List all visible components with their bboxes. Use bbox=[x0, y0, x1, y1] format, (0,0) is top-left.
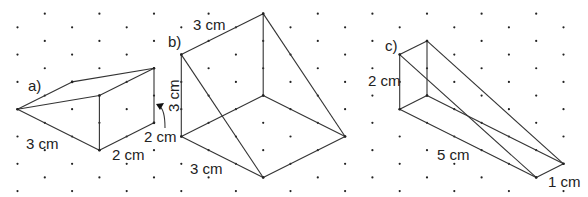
dimension-label-a: 3 cm bbox=[26, 135, 59, 152]
grid-dot bbox=[535, 13, 537, 15]
grid-dot bbox=[508, 26, 510, 28]
grid-dot bbox=[371, 67, 373, 69]
grid-dot bbox=[344, 190, 346, 192]
grid-dot bbox=[71, 26, 73, 28]
grid-dot bbox=[126, 108, 128, 110]
grid-dot bbox=[399, 190, 401, 192]
grid-dot bbox=[562, 108, 564, 110]
vertex-b bbox=[262, 94, 265, 97]
grid-dot bbox=[98, 40, 100, 42]
grid-dot bbox=[16, 81, 18, 83]
grid-dot bbox=[508, 54, 510, 56]
dimension-labels: a)3 cm2 cm2 cmb)3 cm3 cm3 cmc)2 cm5 cm1 … bbox=[26, 16, 581, 190]
grid-dot bbox=[481, 67, 483, 69]
grid-dot bbox=[481, 13, 483, 15]
grid-dot bbox=[235, 81, 237, 83]
dimension-label-c: 2 cm bbox=[368, 72, 401, 89]
grid-dot bbox=[399, 135, 401, 137]
dimension-label-b: 3 cm bbox=[193, 16, 226, 33]
grid-dot bbox=[317, 40, 319, 42]
dot-grid bbox=[16, 13, 564, 193]
grid-dot bbox=[481, 40, 483, 42]
grid-dot bbox=[180, 26, 182, 28]
vertex-c bbox=[426, 40, 429, 43]
grid-dot bbox=[71, 163, 73, 165]
dimension-label-a: 2 cm bbox=[112, 146, 145, 163]
grid-dot bbox=[16, 190, 18, 192]
dimension-label-b: 3 cm bbox=[190, 160, 223, 177]
edge-c bbox=[400, 41, 427, 55]
grid-dot bbox=[98, 13, 100, 15]
edge-b bbox=[263, 96, 345, 137]
grid-dot bbox=[289, 135, 291, 137]
grid-dot bbox=[426, 13, 428, 15]
grid-dot bbox=[180, 190, 182, 192]
dimension-label-c: 5 cm bbox=[437, 146, 470, 163]
grid-dot bbox=[289, 190, 291, 192]
grid-dot bbox=[44, 176, 46, 178]
edge-b bbox=[263, 137, 345, 178]
vertex-a bbox=[153, 67, 156, 70]
grid-dot bbox=[344, 108, 346, 110]
grid-dot bbox=[153, 149, 155, 151]
shape-label-a: a) bbox=[28, 77, 41, 94]
grid-dot bbox=[481, 176, 483, 178]
grid-dot bbox=[562, 81, 564, 83]
vertex-a bbox=[71, 81, 74, 84]
grid-dot bbox=[317, 13, 319, 15]
grid-dot bbox=[562, 190, 564, 192]
grid-dot bbox=[71, 190, 73, 192]
vertex-c bbox=[398, 108, 401, 111]
vertex-a bbox=[153, 122, 156, 125]
grid-dot bbox=[208, 67, 210, 69]
grid-dot bbox=[126, 26, 128, 28]
grid-dot bbox=[399, 163, 401, 165]
vertex-b bbox=[180, 135, 183, 138]
grid-dot bbox=[262, 149, 264, 151]
grid-dot bbox=[344, 26, 346, 28]
edge-a bbox=[72, 68, 154, 82]
grid-dot bbox=[126, 163, 128, 165]
grid-dot bbox=[153, 176, 155, 178]
grid-dot bbox=[481, 94, 483, 96]
grid-dot bbox=[317, 176, 319, 178]
grid-dot bbox=[508, 81, 510, 83]
grid-dot bbox=[262, 122, 264, 124]
shape-label-b: b) bbox=[168, 33, 181, 50]
grid-dot bbox=[562, 135, 564, 137]
grid-dot bbox=[453, 26, 455, 28]
grid-dot bbox=[508, 108, 510, 110]
grid-dot bbox=[508, 190, 510, 192]
grid-dot bbox=[44, 13, 46, 15]
grid-dot bbox=[44, 67, 46, 69]
grid-dot bbox=[344, 54, 346, 56]
grid-dot bbox=[535, 40, 537, 42]
grid-dot bbox=[344, 163, 346, 165]
grid-dot bbox=[562, 54, 564, 56]
grid-dot bbox=[44, 40, 46, 42]
dimension-label-c: 1 cm bbox=[548, 173, 581, 190]
vertex-b bbox=[180, 53, 183, 56]
grid-dot bbox=[16, 135, 18, 137]
grid-dot bbox=[317, 67, 319, 69]
grid-dot bbox=[153, 40, 155, 42]
vertex-b bbox=[262, 12, 265, 15]
grid-dot bbox=[371, 149, 373, 151]
grid-dot bbox=[126, 190, 128, 192]
grid-dot bbox=[535, 67, 537, 69]
edge-b bbox=[263, 14, 345, 137]
grid-dot bbox=[453, 190, 455, 192]
grid-dot bbox=[371, 40, 373, 42]
shape-label-c: c) bbox=[385, 37, 398, 54]
figure-canvas: a)3 cm2 cm2 cmb)3 cm3 cm3 cmc)2 cm5 cm1 … bbox=[0, 0, 588, 197]
grid-dot bbox=[98, 176, 100, 178]
vertex-a bbox=[98, 149, 101, 152]
grid-dot bbox=[426, 176, 428, 178]
grid-dot bbox=[426, 149, 428, 151]
grid-dot bbox=[535, 94, 537, 96]
grid-dot bbox=[71, 54, 73, 56]
vertex-c bbox=[535, 176, 538, 179]
dimension-label-a: 2 cm bbox=[144, 128, 177, 145]
grid-dot bbox=[126, 54, 128, 56]
grid-dot bbox=[371, 13, 373, 15]
